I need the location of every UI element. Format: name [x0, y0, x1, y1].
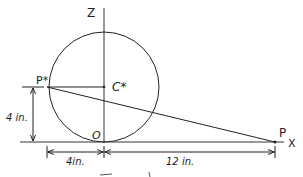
caption-fragment	[100, 174, 112, 175]
c-star-point	[103, 86, 106, 89]
origin-label: O	[92, 129, 101, 142]
diagram: Z X C* P* P O 4 in. 4in. 12 in.	[0, 0, 303, 177]
p-label: P	[279, 126, 286, 140]
dim-left-label: 4in.	[66, 156, 85, 167]
dim-vertical-label: 4 in.	[6, 112, 28, 123]
p-point	[274, 141, 277, 144]
x-axis-label: X	[288, 137, 296, 150]
caption-fragment-2	[149, 172, 150, 177]
c-star-label: C*	[112, 80, 126, 94]
z-axis-label: Z	[87, 6, 95, 20]
p-star-to-p-line	[47, 87, 275, 142]
p-star-label: P*	[36, 74, 49, 87]
dim-right-label: 12 in.	[166, 156, 194, 167]
